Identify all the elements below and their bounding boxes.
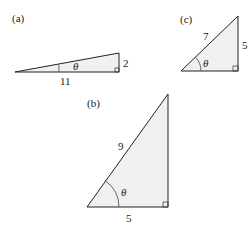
angle-label-a: θ (73, 60, 79, 72)
side-hypotenuse-b: 9 (118, 140, 124, 152)
figure-label-b: (b) (87, 97, 100, 110)
triangle-b: (b) 9 θ 5 (87, 94, 168, 224)
triangle-a: (a) θ 2 11 (12, 12, 129, 87)
side-adjacent-a: 11 (60, 75, 71, 87)
side-opposite-c: 5 (242, 39, 248, 51)
triangles-diagram: (a) θ 2 11 (c) 7 5 θ (b) 9 θ 5 (0, 0, 252, 227)
angle-label-b: θ (121, 186, 127, 198)
side-hypotenuse-c: 7 (203, 30, 209, 42)
triangle-b-shape (87, 94, 168, 207)
angle-label-c: θ (203, 57, 209, 69)
side-opposite-a: 2 (123, 57, 129, 69)
triangle-a-shape (15, 53, 119, 72)
side-adjacent-b: 5 (126, 212, 132, 224)
figure-label-c: (c) (180, 13, 193, 26)
figure-label-a: (a) (12, 12, 25, 25)
triangle-c: (c) 7 5 θ (180, 13, 248, 71)
